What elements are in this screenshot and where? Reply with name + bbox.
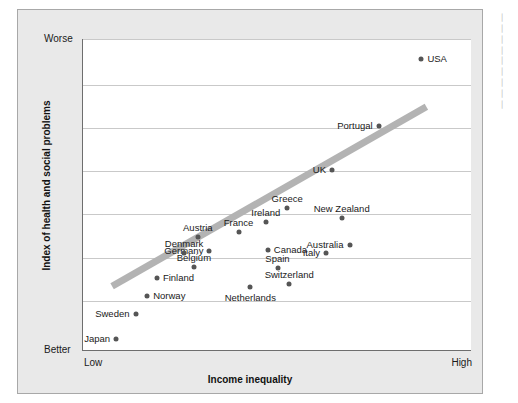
- chart-figure: USAPortugalUKGreeceNew ZealandIrelandFra…: [17, 9, 483, 394]
- point-label: Austria: [183, 223, 213, 233]
- point-label: Japan: [84, 334, 110, 344]
- point-label: Netherlands: [225, 293, 276, 303]
- point-label: Italy: [303, 248, 320, 258]
- point-label: France: [224, 218, 254, 228]
- margin-text-line: ▕: [497, 56, 518, 67]
- margin-text-line: ▕: [497, 67, 518, 78]
- data-point: [339, 216, 344, 221]
- point-label: Portugal: [337, 122, 372, 132]
- clipped-margin-text: ▕▕▕▕▕▕▕▕▕: [497, 13, 518, 111]
- margin-text-line: ▕: [497, 78, 518, 89]
- data-point: [191, 264, 196, 269]
- data-point: [133, 311, 138, 316]
- point-label: Greece: [272, 193, 303, 203]
- data-point: [285, 205, 290, 210]
- x-tick-high: High: [451, 358, 472, 368]
- gridline-1: [83, 85, 471, 86]
- y-axis-title: Index of health and social problems: [41, 66, 52, 306]
- data-point: [263, 219, 268, 224]
- margin-text-line: ▕: [497, 89, 518, 100]
- data-point: [248, 285, 253, 290]
- gridline-3: [83, 171, 471, 172]
- margin-text-line: ▕: [497, 13, 518, 24]
- plot-area: USAPortugalUKGreeceNew ZealandIrelandFra…: [82, 39, 471, 351]
- point-label: New Zealand: [314, 204, 370, 214]
- y-tick-better: Better: [44, 345, 71, 355]
- point-label: Ireland: [251, 207, 280, 217]
- data-point: [145, 294, 150, 299]
- point-label: Sweden: [95, 309, 129, 319]
- point-label: UK: [313, 165, 326, 175]
- data-point: [114, 336, 119, 341]
- data-point: [154, 275, 159, 280]
- data-point: [419, 57, 424, 62]
- data-point: [265, 247, 270, 252]
- point-label: USA: [427, 55, 447, 65]
- margin-text-line: ▕: [497, 35, 518, 46]
- x-tick-low: Low: [84, 358, 102, 368]
- data-point: [236, 230, 241, 235]
- margin-text-line: ▕: [497, 46, 518, 57]
- margin-text-line: ▕: [497, 100, 518, 111]
- data-point: [376, 124, 381, 129]
- data-point: [347, 242, 352, 247]
- margin-text-line: ▕: [497, 24, 518, 35]
- data-point: [287, 281, 292, 286]
- point-label: Belgium: [177, 252, 211, 262]
- data-point: [330, 168, 335, 173]
- point-label: Switzerland: [265, 269, 314, 279]
- point-label: Norway: [153, 292, 185, 302]
- data-point: [324, 250, 329, 255]
- point-label: Spain: [265, 254, 289, 264]
- x-axis-title: Income inequality: [18, 374, 482, 385]
- y-tick-worse: Worse: [44, 34, 73, 44]
- point-label: Denmark: [165, 238, 204, 248]
- gridline-6: [83, 301, 471, 302]
- gridline-2: [83, 128, 471, 129]
- point-label: Finland: [163, 273, 194, 283]
- gridline-0: [83, 39, 471, 40]
